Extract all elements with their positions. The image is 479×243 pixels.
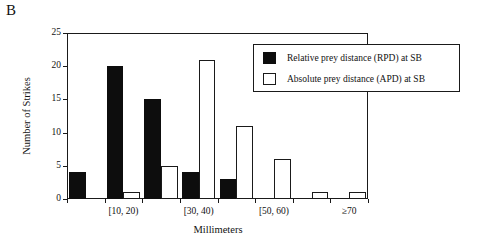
bar-rpd (144, 99, 161, 199)
x-axis-title: Millimeters (194, 224, 243, 235)
legend-swatch-rpd-icon (263, 52, 276, 64)
bar-apd (349, 192, 366, 199)
plot-top-border (67, 33, 368, 34)
bar-apd (199, 60, 216, 199)
legend-item-rpd: Relative prey distance (RPD) at SB (263, 51, 422, 65)
y-axis-line (67, 33, 68, 199)
x-tick (142, 199, 143, 203)
legend: Relative prey distance (RPD) at SB Absol… (253, 44, 460, 92)
y-tick (63, 66, 67, 67)
bar-apd (161, 166, 178, 199)
figure-panel-b: B Number of Strikes Millimeters 05101520… (0, 0, 479, 243)
bar-rpd (69, 172, 86, 199)
x-tick (330, 199, 331, 203)
y-tick-label: 25 (52, 28, 62, 38)
legend-item-apd: Absolute prey distance (APD) at SB (263, 72, 425, 86)
x-tick (293, 199, 294, 203)
y-tick (63, 133, 67, 134)
x-tick-label: ≥70 (342, 207, 357, 217)
y-tick-label: 10 (52, 128, 62, 138)
x-tick (67, 199, 68, 203)
bar-apd (236, 126, 253, 199)
y-tick-label: 5 (56, 161, 61, 171)
y-tick-label: 20 (52, 61, 62, 71)
bar-rpd (182, 172, 199, 199)
bar-apd (312, 192, 329, 199)
bar-rpd (220, 179, 237, 199)
x-tick (255, 199, 256, 203)
x-tick-label: [30, 40) (184, 207, 214, 217)
bar-apd (123, 192, 140, 199)
legend-label-apd: Absolute prey distance (APD) at SB (287, 74, 425, 84)
x-tick (180, 199, 181, 203)
y-tick-label: 0 (56, 194, 61, 204)
y-tick (63, 166, 67, 167)
x-tick-label: [10, 20) (108, 207, 138, 217)
y-tick (63, 33, 67, 34)
y-tick (63, 99, 67, 100)
x-tick-label: [50, 60) (259, 207, 289, 217)
bar-apd (274, 159, 291, 199)
legend-label-rpd: Relative prey distance (RPD) at SB (287, 53, 422, 63)
bar-rpd (107, 66, 124, 199)
legend-swatch-apd-icon (263, 73, 276, 85)
x-tick (368, 199, 369, 203)
x-tick (218, 199, 219, 203)
x-tick (105, 199, 106, 203)
panel-label: B (6, 2, 16, 19)
y-tick-label: 15 (52, 95, 62, 105)
y-axis-title: Number of Strikes (21, 77, 32, 155)
